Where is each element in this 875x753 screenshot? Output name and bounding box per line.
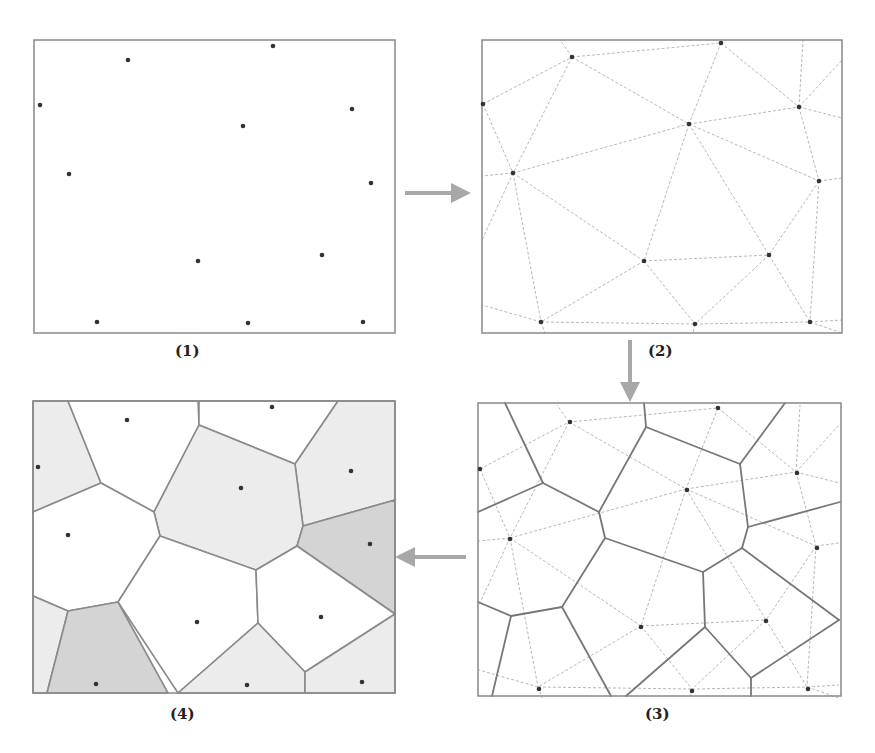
delaunay-edge xyxy=(513,57,572,173)
delaunay-edge xyxy=(560,40,572,57)
voronoi-edge xyxy=(492,616,511,696)
delaunay-edge xyxy=(482,305,541,322)
voronoi-edge xyxy=(742,527,748,548)
delaunay-edge xyxy=(572,43,721,57)
delaunay-edge xyxy=(810,322,842,333)
sample-point xyxy=(350,107,355,112)
sample-point xyxy=(539,320,544,325)
sample-point xyxy=(795,471,800,476)
delaunay-edge xyxy=(538,687,692,689)
delaunay-edge xyxy=(479,538,510,605)
delaunay-edge xyxy=(816,543,839,546)
delaunay-edge xyxy=(541,261,644,322)
sample-point xyxy=(687,122,692,127)
delaunay-edge xyxy=(557,405,569,422)
delaunay-edge xyxy=(799,107,819,181)
sample-point xyxy=(508,537,513,542)
voronoi-edge xyxy=(748,502,840,527)
sample-point xyxy=(94,682,99,687)
delaunay-edge xyxy=(799,40,803,107)
delaunay-edge xyxy=(819,178,842,181)
sample-point xyxy=(245,683,250,688)
delaunay-edge xyxy=(766,546,816,620)
sample-point xyxy=(196,259,201,264)
delaunay-edge xyxy=(807,685,839,687)
delaunay-edge xyxy=(569,408,718,422)
sample-point xyxy=(246,321,251,326)
caption-panel-4: (4) xyxy=(170,705,195,723)
sample-point xyxy=(95,320,100,325)
sample-point xyxy=(368,542,373,547)
delaunay-edge xyxy=(569,422,686,489)
voronoi-edge xyxy=(511,607,562,616)
panel-frame xyxy=(482,40,842,333)
delaunay-edge xyxy=(513,173,541,322)
caption-panel-2: (2) xyxy=(648,342,673,360)
delaunay-edge xyxy=(572,57,689,124)
sample-point xyxy=(319,615,324,620)
voronoi-edge xyxy=(562,607,611,696)
voronoi-edge xyxy=(599,512,605,538)
sample-point xyxy=(241,124,246,129)
delaunay-edge xyxy=(695,255,769,324)
sample-point xyxy=(806,687,811,692)
delaunay-edge xyxy=(513,173,644,261)
sample-point xyxy=(642,259,647,264)
sample-point xyxy=(126,58,131,63)
delaunay-edge xyxy=(796,425,839,472)
voronoi-edge xyxy=(505,403,543,483)
panel-frame xyxy=(478,403,841,696)
caption-panel-1: (1) xyxy=(175,342,200,360)
delaunay-edge xyxy=(644,255,769,261)
delaunay-edge xyxy=(799,107,842,118)
delaunay-edge xyxy=(689,43,721,124)
delaunay-edge xyxy=(479,670,538,687)
sample-point xyxy=(195,620,200,625)
delaunay-edge xyxy=(641,620,766,626)
delaunay-edge xyxy=(644,124,689,261)
delaunay-edge xyxy=(807,546,816,687)
voronoi-edge xyxy=(478,602,511,616)
delaunay-edge xyxy=(644,261,695,324)
sample-point xyxy=(67,172,72,177)
sample-point xyxy=(815,546,820,551)
panel-2-delaunay-triangulation xyxy=(481,40,842,333)
delaunay-edge xyxy=(513,124,689,173)
delaunay-edge xyxy=(766,620,807,687)
voronoi-edge xyxy=(605,538,703,572)
voronoi-edge xyxy=(740,403,785,464)
delaunay-edge xyxy=(721,43,799,107)
sample-point xyxy=(767,253,772,258)
delaunay-edge xyxy=(689,124,819,181)
delaunay-edge xyxy=(769,181,819,255)
sample-point xyxy=(716,406,721,411)
voronoi-edge xyxy=(703,548,742,572)
sample-point xyxy=(369,181,374,186)
caption-panel-3: (3) xyxy=(645,705,670,723)
delaunay-edge xyxy=(482,173,513,176)
sample-point xyxy=(537,687,542,692)
delaunay-edge xyxy=(479,538,510,541)
sample-point xyxy=(271,44,276,49)
sample-point xyxy=(511,171,516,176)
delaunay-edge xyxy=(510,489,686,538)
voronoi-edge xyxy=(644,403,646,427)
delaunay-edge xyxy=(483,57,572,104)
delaunay-edge xyxy=(482,173,513,240)
delaunay-edge xyxy=(483,104,513,173)
delaunay-edge xyxy=(686,489,816,546)
sample-point xyxy=(481,102,486,107)
sample-point xyxy=(817,179,822,184)
sample-point xyxy=(690,689,695,694)
sample-point xyxy=(685,488,690,493)
delaunay-edge xyxy=(799,60,842,107)
delaunay-edge xyxy=(510,422,569,538)
delaunay-edge xyxy=(692,687,807,689)
panel-1-sample-points xyxy=(34,40,395,333)
delaunay-edge xyxy=(796,472,839,483)
sample-point xyxy=(66,533,71,538)
sample-point xyxy=(719,41,724,46)
voronoi-process-diagram xyxy=(0,0,875,753)
panel-frame xyxy=(34,40,395,333)
sample-point xyxy=(349,469,354,474)
